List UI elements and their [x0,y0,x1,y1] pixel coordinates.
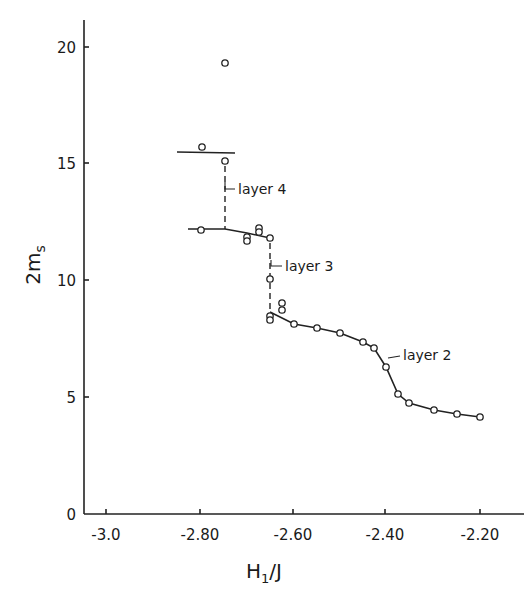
chart-canvas: 20 15 10 5 0 -3.0 -2.80 -2.60 -2.40 -2.2… [0,0,532,591]
annotation-layer-4: layer 4 [238,181,287,197]
y-axis-title: 2ms [21,245,48,285]
x-tick-label: -2.40 [366,526,405,544]
x-tick-label: -2.20 [461,526,500,544]
x-axis-title: H1/J [246,559,282,586]
annotation-layer-3: layer 3 [285,258,333,274]
layer2-leader [388,356,400,358]
layer3-leader [271,260,282,266]
annotation-layer-2: layer 2 [403,347,451,363]
y-tick-label: 20 [57,39,76,57]
layer4-plateau-line [177,152,235,153]
y-tick-label: 15 [57,155,76,173]
y-tick-label: 5 [66,389,76,407]
x-tick-label: -2.60 [274,526,313,544]
x-tick-label: -2.80 [181,526,220,544]
data-points [198,60,483,420]
x-tick-label: -3.0 [91,526,120,544]
y-tick-label: 0 [66,506,76,524]
layer2-curve [270,312,480,417]
layer4-leader [225,182,235,189]
y-tick-label: 10 [57,272,76,290]
